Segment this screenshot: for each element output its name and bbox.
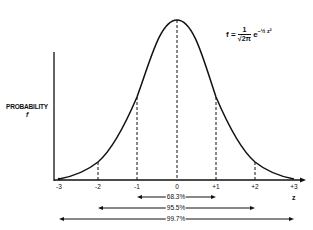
tick-label: +1 <box>208 183 224 190</box>
formula-numerator: 1 <box>238 26 251 35</box>
tick-label: -3 <box>51 183 67 190</box>
tick-dot-minus-3 <box>58 178 61 181</box>
tick-label: -2 <box>90 183 106 190</box>
y-axis-label: PROBABILITY f <box>2 103 52 119</box>
range-label-95: 95.5% <box>166 204 186 211</box>
formula: f = 1 √2π e−½ z² <box>226 26 272 43</box>
tick-label: +3 <box>286 183 302 190</box>
formula-exponent: −½ z² <box>258 28 272 34</box>
tick-label: 0 <box>169 183 185 190</box>
formula-fraction: 1 √2π <box>238 26 251 43</box>
tick-label: +2 <box>247 183 263 190</box>
y-axis-title: PROBABILITY <box>6 103 48 110</box>
tick-label: -1 <box>129 183 145 190</box>
x-axis-symbol: z <box>292 194 296 201</box>
formula-lhs: f = <box>226 30 236 39</box>
x-axis-arrow-icon <box>300 178 306 183</box>
range-label-99: 99.7% <box>166 215 186 222</box>
y-axis-symbol: f <box>2 111 52 119</box>
range-label-68: 68.3% <box>166 193 186 200</box>
formula-denominator: √2π <box>238 35 251 42</box>
